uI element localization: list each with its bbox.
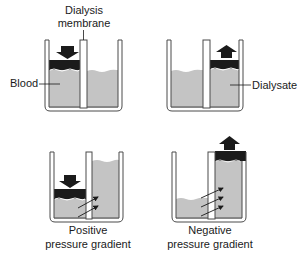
panel-top-left: Dialysis membrane Blood bbox=[10, 4, 122, 111]
positive-label-line2: pressure gradient bbox=[45, 238, 131, 250]
blood-fluid bbox=[49, 70, 80, 108]
arrow-up-icon bbox=[219, 136, 240, 150]
dialysis-membrane bbox=[86, 152, 92, 219]
arrow-down-icon bbox=[56, 46, 79, 59]
dialysis-membrane bbox=[208, 152, 215, 219]
dialysate-fluid bbox=[210, 69, 239, 108]
positive-label-line1: Positive bbox=[69, 224, 108, 236]
panel-bottom-right: Negative pressure gradient bbox=[167, 136, 253, 250]
piston bbox=[215, 151, 246, 161]
arrow-up-icon bbox=[216, 45, 237, 58]
blood-label: Blood bbox=[10, 77, 38, 89]
dialysate-fluid bbox=[92, 160, 119, 219]
blood-fluid bbox=[176, 198, 208, 219]
dialysate-fluid bbox=[87, 70, 118, 108]
piston bbox=[49, 60, 80, 70]
membrane-label-line2: membrane bbox=[58, 17, 111, 29]
negative-label-line1: Negative bbox=[188, 224, 231, 236]
dialysis-diagram: Dialysis membrane Blood Dialysate Positi… bbox=[0, 0, 303, 260]
membrane-label-line1: Dialysis bbox=[65, 4, 103, 16]
dialysis-membrane bbox=[203, 40, 210, 108]
dialysis-membrane bbox=[80, 40, 87, 108]
negative-label-line2: pressure gradient bbox=[167, 238, 253, 250]
blood-fluid bbox=[54, 199, 86, 219]
blood-fluid bbox=[171, 70, 203, 108]
arrow-down-icon bbox=[59, 175, 81, 188]
dialysate-label: Dialysate bbox=[252, 79, 297, 91]
panel-top-right: Dialysate bbox=[167, 40, 297, 111]
panel-bottom-left: Positive pressure gradient bbox=[45, 152, 131, 250]
